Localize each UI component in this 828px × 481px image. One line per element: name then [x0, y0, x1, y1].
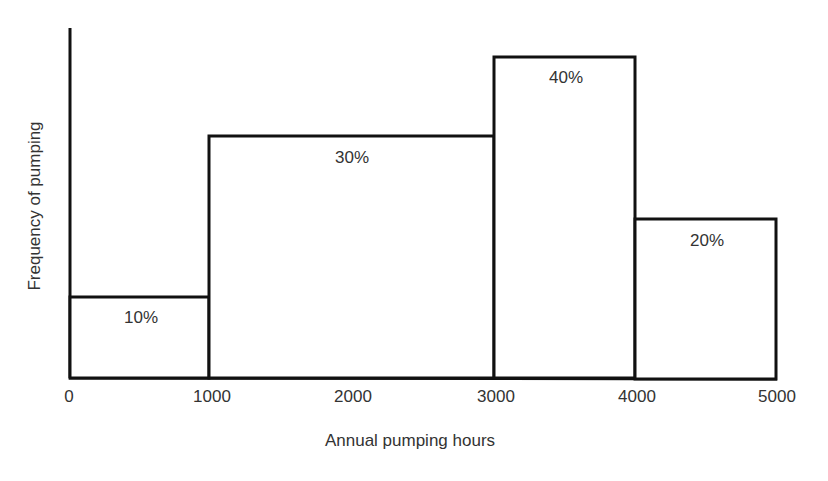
x-tick-label: 5000 — [758, 387, 796, 406]
x-tick-label: 4000 — [618, 387, 656, 406]
bar-label: 20% — [690, 231, 724, 250]
histogram-chart: 10% 30% 40% 20% 0 1000 2000 3000 4000 50… — [0, 0, 828, 481]
figure-caption-cutoff: ​ — [0, 476, 620, 481]
bar-1000-3000 — [209, 136, 494, 378]
x-tick-label: 0 — [64, 387, 73, 406]
x-tick-label: 1000 — [193, 387, 231, 406]
bar-3000-4000 — [494, 57, 635, 378]
bar-label: 10% — [124, 308, 158, 327]
y-axis-title: Frequency of pumping — [25, 121, 44, 290]
x-tick-label: 3000 — [477, 387, 515, 406]
x-axis-title: Annual pumping hours — [325, 431, 495, 450]
bars — [70, 57, 776, 379]
bar-label: 40% — [549, 68, 583, 87]
x-tick-label: 2000 — [334, 387, 372, 406]
bar-label: 30% — [335, 148, 369, 167]
